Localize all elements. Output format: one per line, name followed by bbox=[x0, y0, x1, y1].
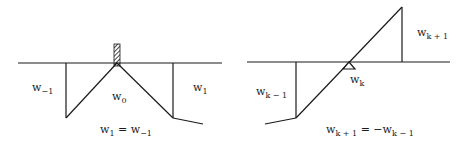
label-base: w bbox=[112, 90, 121, 103]
eq-lhs-base: w bbox=[326, 123, 335, 136]
label-subscript: −1 bbox=[41, 87, 53, 96]
right-equation: wk + 1 = −wk − 1 bbox=[326, 124, 414, 138]
label-subscript: k bbox=[359, 79, 364, 88]
label-base: w bbox=[256, 85, 265, 98]
label-w-k-plus1: wk + 1 bbox=[417, 27, 448, 41]
eq-lhs-subscript: k + 1 bbox=[335, 129, 357, 138]
label-w-k: wk bbox=[350, 74, 364, 88]
label-base: w bbox=[417, 26, 426, 39]
label-subscript: k − 1 bbox=[265, 91, 287, 100]
pin-support-icon bbox=[343, 62, 355, 69]
label-subscript: 1 bbox=[202, 87, 207, 96]
left-deflection-left bbox=[66, 63, 117, 118]
eq-rhs-base: w bbox=[131, 123, 140, 136]
label-subscript: k + 1 bbox=[426, 32, 448, 41]
eq-rhs-subscript: k − 1 bbox=[392, 129, 414, 138]
eq-rhs-base: w bbox=[383, 123, 392, 136]
label-base: w bbox=[32, 81, 41, 94]
eq-rhs-subscript: −1 bbox=[140, 129, 152, 138]
label-base: w bbox=[193, 81, 202, 94]
eq-operator: = − bbox=[357, 123, 382, 136]
eq-lhs-base: w bbox=[100, 123, 109, 136]
left-tail bbox=[173, 118, 203, 124]
right-tail bbox=[265, 118, 296, 124]
label-base: w bbox=[350, 73, 359, 86]
eq-operator: = bbox=[115, 123, 131, 136]
left-equation: w1 = w−1 bbox=[100, 124, 152, 138]
label-w1: w1 bbox=[193, 82, 208, 96]
label-subscript: 0 bbox=[121, 96, 126, 105]
label-w0: w0 bbox=[112, 91, 127, 105]
clamped-wall-icon bbox=[114, 44, 120, 66]
label-w-minus1: w−1 bbox=[32, 82, 53, 96]
label-w-k-minus1: wk − 1 bbox=[256, 86, 287, 100]
right-diagram bbox=[247, 7, 450, 124]
